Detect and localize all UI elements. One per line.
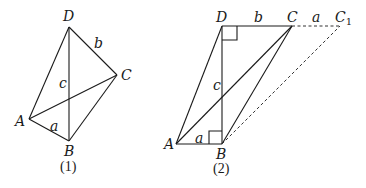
- figure-caption-1: (1): [60, 159, 77, 175]
- edge-dc: [69, 27, 117, 75]
- edge-label-b: b: [94, 35, 103, 51]
- edge-label-a: a: [195, 130, 203, 146]
- figure-2: D C C1 A B b a c a (2): [162, 9, 352, 177]
- figure-caption-2: (2): [213, 161, 230, 177]
- edge-label-b: b: [254, 9, 263, 25]
- edge-bc: [69, 75, 117, 141]
- right-angle-mark-d: [222, 26, 237, 40]
- edge-label-a-top: a: [312, 9, 320, 25]
- edge-label-c: c: [213, 77, 221, 93]
- vertex-label-c: C: [287, 9, 298, 25]
- edge-ab: [29, 119, 69, 141]
- vertex-label-c1: C1: [335, 9, 352, 27]
- edge-da: [29, 27, 69, 119]
- vertex-label-c: C: [121, 67, 132, 83]
- vertex-label-b: B: [63, 143, 74, 159]
- vertex-label-d: D: [215, 9, 227, 25]
- vertex-label-b: B: [215, 146, 226, 162]
- edge-label-c: c: [59, 75, 67, 91]
- edge-label-a: a: [50, 118, 58, 134]
- edge-ac: [176, 26, 292, 144]
- vertex-label-a: A: [162, 136, 174, 152]
- right-angle-mark-b: [209, 131, 222, 144]
- diagram-canvas: D C A B b c a (1) D C C1 A B b a c a (2): [0, 0, 366, 188]
- edge-ac: [29, 75, 117, 119]
- figure-1: D C A B b c a (1): [13, 8, 132, 175]
- vertex-label-d: D: [62, 8, 74, 24]
- vertex-label-a: A: [13, 113, 25, 129]
